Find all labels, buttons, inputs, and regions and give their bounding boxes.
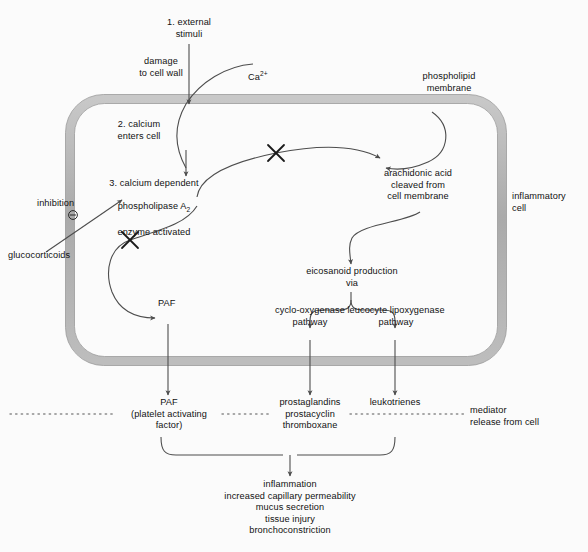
calcium-ion-base: Ca: [248, 72, 260, 82]
step-1-external-stimuli: 1. external stimuli: [149, 17, 229, 40]
damage-to-cell-wall-label: damage to cell wall: [131, 56, 191, 79]
outcomes-label: inflammation increased capillary permeab…: [190, 479, 390, 537]
phospholipase-to-arachidonic-curve: [197, 147, 380, 197]
paf-outside-label: PAF (platelet activating factor): [116, 397, 222, 432]
mediator-release-label: mediator release from cell: [470, 405, 570, 428]
step-3-line-1: 3. calcium dependent: [109, 178, 198, 188]
prostaglandins-label: prostaglandins prostacyclin thromboxane: [262, 397, 358, 432]
step-3-line-2: phospholipase A: [118, 201, 187, 211]
phospholipase-subscript: 2: [187, 206, 191, 213]
phospholipid-membrane-label: phospholipid membrane: [404, 71, 494, 94]
calcium-ion-label: Ca2+: [248, 56, 294, 83]
pathway-diagram-canvas: 1. external stimuli damage to cell wall …: [0, 0, 588, 552]
arachidonic-acid-label: arachidonic acid cleaved from cell membr…: [364, 168, 472, 203]
inhibition-label: inhibition: [37, 198, 97, 210]
leukotrienes-label: leukotrienes: [355, 397, 435, 409]
leucocyte-lipoxygenase-pathway-label: leucocyte lipoxygenase pathway: [338, 305, 454, 328]
calcium-ion-charge: 2+: [260, 70, 268, 77]
glucocorticoids-label: glucocorticoids: [8, 250, 100, 262]
eicosanoid-production-label: eicosanoid production via: [294, 266, 410, 289]
x-block-icon-arachidonic: [268, 145, 284, 161]
step-3-phospholipase-activation: 3. calcium dependent phospholipase A2 en…: [92, 166, 216, 238]
step-2-calcium-enters-cell: 2. calcium enters cell: [101, 119, 177, 142]
mediator-convergence-brace: [161, 437, 395, 455]
calcium-entry-curve: [177, 64, 253, 168]
inflammatory-cell-label: inflammatory cell: [512, 191, 586, 214]
step-3-line-3: enzyme activated: [117, 227, 190, 237]
arachidonic-to-eicosanoid-arrow: [350, 212, 420, 264]
arachidonic-acid-hook-arrow: [386, 112, 446, 169]
paf-inside-label: PAF: [158, 298, 198, 310]
